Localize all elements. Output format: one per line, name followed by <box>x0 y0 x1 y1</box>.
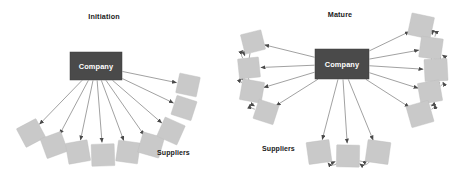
hub-supplier-arrow <box>369 32 409 51</box>
suppliers-label-mature: Suppliers <box>262 145 295 153</box>
supplier-box[interactable] <box>176 73 201 97</box>
hub-supplier-arrow <box>264 72 315 87</box>
hub-supplier-arrow <box>276 79 318 105</box>
hub-supplier-arrow <box>348 79 373 140</box>
panel-title-initiation: Initiation <box>88 12 119 21</box>
hub-supplier-arrow <box>370 66 424 69</box>
company-label-mature: Company <box>325 60 360 69</box>
supplier-supplier-arrow <box>432 105 435 110</box>
company-node-mature[interactable]: Company <box>315 49 369 79</box>
supplier-box[interactable] <box>417 80 442 105</box>
supplier-box[interactable] <box>116 140 141 164</box>
hub-supplier-arrow <box>122 79 173 103</box>
hub-supplier-arrow <box>97 81 102 143</box>
hub-supplier-arrow <box>343 80 347 144</box>
supplier-box[interactable] <box>306 140 332 165</box>
company-node-initiation[interactable]: Company <box>70 52 122 80</box>
suppliers-label-initiation: Suppliers <box>157 149 190 157</box>
panel-initiation: Initiation Company Suppliers <box>16 12 200 166</box>
panel-title-mature: Mature <box>328 10 352 19</box>
mature-hub-links <box>261 32 423 144</box>
supplier-box[interactable] <box>424 58 448 81</box>
supplier-box[interactable] <box>336 145 359 167</box>
supplier-box[interactable] <box>65 140 90 165</box>
supplier-box[interactable] <box>407 13 434 39</box>
supplier-box[interactable] <box>238 57 261 79</box>
supplier-box[interactable] <box>171 95 197 121</box>
supplier-box[interactable] <box>365 140 391 165</box>
hub-supplier-arrow <box>322 79 338 139</box>
figure-root: Initiation Company Suppliers Mature Comp… <box>0 0 476 187</box>
hub-supplier-arrow <box>261 65 315 67</box>
hub-supplier-arrow <box>122 71 176 82</box>
hub-supplier-arrow <box>40 80 83 124</box>
supplier-box[interactable] <box>239 79 264 104</box>
supplier-box[interactable] <box>406 100 434 127</box>
company-label-initiation: Company <box>79 62 114 71</box>
supplier-box[interactable] <box>253 99 279 125</box>
supplier-supplier-arrow <box>241 50 243 58</box>
diagram-canvas: Initiation Company Suppliers Mature Comp… <box>0 0 476 187</box>
supplier-box[interactable] <box>91 144 115 167</box>
supplier-supplier-arrow <box>440 82 443 86</box>
supplier-supplier-arrow <box>434 31 436 36</box>
hub-supplier-arrow <box>113 80 162 123</box>
supplier-box[interactable] <box>419 36 444 60</box>
supplier-supplier-arrow <box>250 104 255 109</box>
supplier-box[interactable] <box>240 30 265 54</box>
supplier-supplier-arrow <box>253 103 255 106</box>
hub-supplier-arrow <box>265 45 315 57</box>
panel-mature: Mature Company Suppliers <box>238 10 449 167</box>
hub-supplier-arrow <box>81 80 93 140</box>
hub-supplier-arrow <box>369 50 418 59</box>
